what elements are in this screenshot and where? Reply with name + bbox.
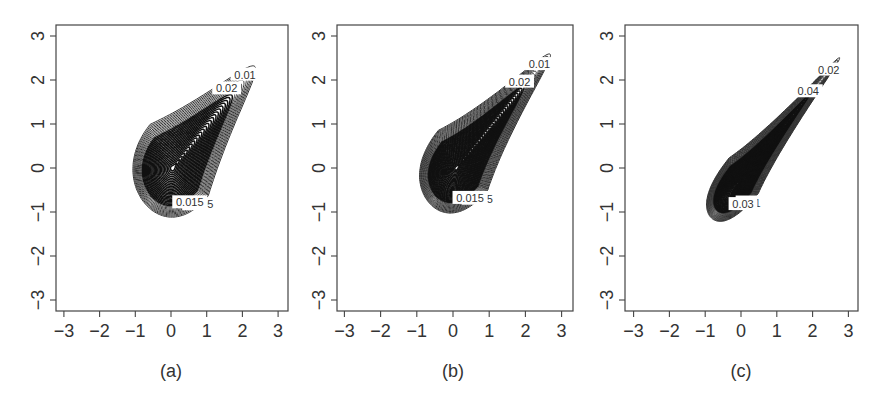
y-tick-label: 2 <box>28 75 48 85</box>
contour-label: 0.015 <box>456 192 484 204</box>
x-tick-label: −2 <box>659 321 680 341</box>
x-tick-label: −3 <box>54 321 75 341</box>
x-tick-label: −3 <box>334 321 355 341</box>
panel-a: 0.0050.0150.010.02 −3−2−10123 −3−2−10123… <box>28 25 288 381</box>
y-tick-label: −2 <box>597 246 617 267</box>
contour-label: 0.03 <box>732 198 753 210</box>
contour-label: 0.02 <box>818 64 839 76</box>
contour-label: 0.04 <box>798 85 819 97</box>
panel-caption: (c) <box>731 361 752 381</box>
y-tick-label: −2 <box>28 246 48 267</box>
y-tick-label: 1 <box>309 119 329 129</box>
x-tick-label: 2 <box>237 321 247 341</box>
x-tick-label: −1 <box>695 321 716 341</box>
y-tick-label: 3 <box>597 31 617 41</box>
y-tick-label: 2 <box>309 75 329 85</box>
panel-caption: (b) <box>442 361 464 381</box>
x-tick-label: 3 <box>557 321 567 341</box>
panel-c: 0.010.030.020.04 −3−2−10123 −3−2−10123 (… <box>597 25 858 381</box>
x-tick-label: 1 <box>484 321 494 341</box>
x-tick-label: 1 <box>202 321 212 341</box>
panel-caption: (a) <box>160 361 182 381</box>
contour-label: 0.015 <box>176 196 204 208</box>
x-tick-label: −3 <box>623 321 644 341</box>
x-tick-label: 1 <box>772 321 782 341</box>
x-tick-label: −1 <box>407 321 428 341</box>
y-tick-label: 3 <box>309 31 329 41</box>
y-tick-label: −3 <box>597 290 617 311</box>
contour-lines <box>707 58 840 222</box>
x-tick-label: −1 <box>125 321 146 341</box>
x-tick-label: −2 <box>370 321 391 341</box>
y-tick-label: 1 <box>28 119 48 129</box>
y-tick-label: 0 <box>309 163 329 173</box>
x-tick-label: 2 <box>520 321 530 341</box>
x-tick-label: 0 <box>166 321 176 341</box>
y-tick-label: −1 <box>309 202 329 223</box>
contour-label: 0.02 <box>216 82 237 94</box>
contour-label: 0.02 <box>509 76 530 88</box>
panel-b: 0.0050.0150.010.02 −3−2−10123 −3−2−10123… <box>309 25 573 381</box>
y-tick-label: −3 <box>28 290 48 311</box>
y-tick-label: 1 <box>597 119 617 129</box>
x-axis: −3−2−10123 <box>623 311 853 341</box>
x-tick-label: 0 <box>448 321 458 341</box>
x-tick-label: −2 <box>89 321 110 341</box>
y-tick-label: −1 <box>28 202 48 223</box>
y-axis: −3−2−10123 <box>28 31 56 310</box>
y-tick-label: −3 <box>309 290 329 311</box>
y-tick-label: 0 <box>597 163 617 173</box>
x-tick-label: 3 <box>843 321 853 341</box>
y-tick-label: 0 <box>28 163 48 173</box>
x-tick-label: 0 <box>736 321 746 341</box>
y-axis: −3−2−10123 <box>597 31 625 310</box>
y-tick-label: −1 <box>597 202 617 223</box>
x-tick-label: 2 <box>808 321 818 341</box>
contour-figure: 0.0050.0150.010.02 −3−2−10123 −3−2−10123… <box>0 0 881 399</box>
y-tick-label: 2 <box>597 75 617 85</box>
y-tick-label: −2 <box>309 246 329 267</box>
contour-label: 0.01 <box>529 58 550 70</box>
y-axis: −3−2−10123 <box>309 31 337 310</box>
x-axis: −3−2−10123 <box>54 311 283 341</box>
y-tick-label: 3 <box>28 31 48 41</box>
contour-label: 0.01 <box>234 69 255 81</box>
x-tick-label: 3 <box>273 321 283 341</box>
x-axis: −3−2−10123 <box>334 311 566 341</box>
